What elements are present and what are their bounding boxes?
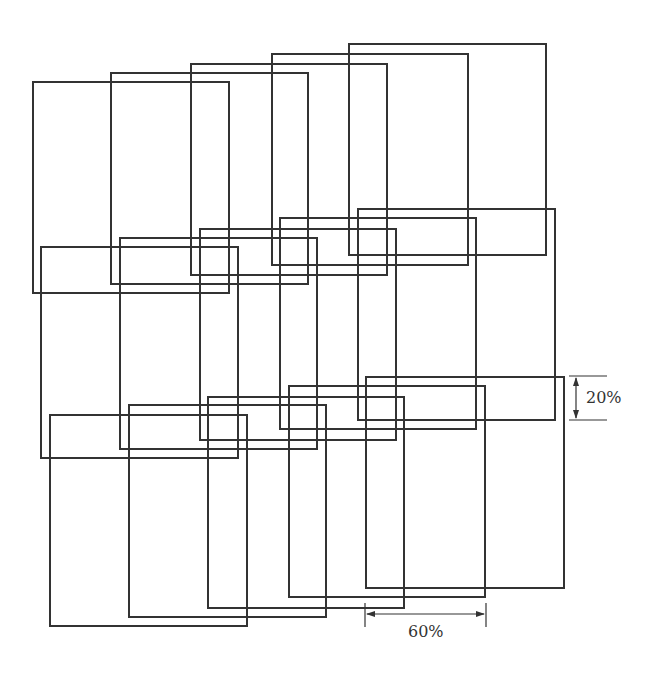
arrow-down-icon (573, 410, 579, 419)
overlap-diagram (0, 0, 658, 674)
horizontal-overlap-label: 60% (408, 624, 444, 640)
dimension-arrows (0, 0, 658, 674)
arrow-left-icon (366, 611, 375, 617)
vertical-overlap-label: 20% (586, 390, 622, 406)
arrow-up-icon (573, 377, 579, 386)
arrow-right-icon (476, 611, 485, 617)
